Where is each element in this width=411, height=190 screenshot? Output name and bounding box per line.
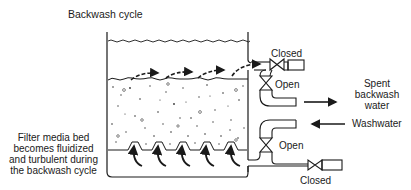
underdrain-profile (108, 142, 247, 150)
tank-wall (107, 32, 248, 177)
top-valve-label: Closed (271, 48, 302, 59)
spent-line2: backwash (350, 89, 404, 100)
spent-line1: Spent (350, 78, 404, 89)
piping (248, 59, 342, 172)
washwater-label: Washwater (352, 118, 402, 129)
filter-media-caption: Filter media bed becomes fluidized and t… (6, 132, 101, 176)
bottom-valve-label: Closed (300, 175, 331, 186)
media-line2: becomes fluidized (6, 143, 101, 154)
upper-open-valve-label: Open (275, 79, 299, 90)
spent-line3: water (350, 100, 404, 111)
top-closed-valve (270, 59, 284, 70)
lower-open-valve-label: Open (279, 140, 303, 151)
media-particles (111, 84, 245, 145)
upper-open-valve (260, 76, 272, 90)
water-surface-line (108, 40, 250, 42)
media-line1: Filter media bed (6, 132, 101, 143)
spent-backwash-water-label: Spent backwash water (350, 78, 404, 111)
lower-open-valve (260, 138, 272, 152)
media-bed-surface (108, 78, 248, 80)
media-line3: and turbulent during (6, 154, 101, 165)
media-line4: the backwash cycle (6, 165, 101, 176)
bottom-closed-valve (308, 160, 322, 170)
tank-right-wall (248, 32, 251, 63)
